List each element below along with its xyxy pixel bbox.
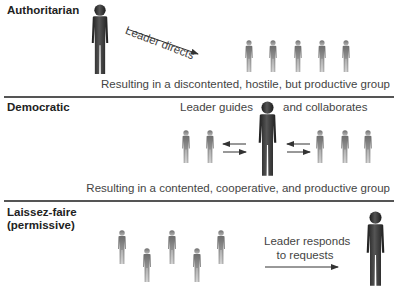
leader-responds-arrow — [0, 0, 396, 290]
laissez-faire-leader-figure — [362, 211, 389, 288]
